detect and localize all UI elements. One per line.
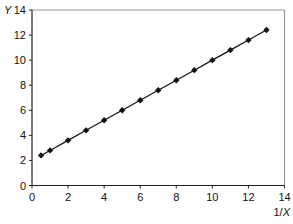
y-tick-label: 8 <box>20 79 26 91</box>
series-line <box>41 30 266 155</box>
y-axis-title: Y <box>4 4 12 16</box>
x-tick-label: 2 <box>65 191 71 203</box>
data-point-diamond-icon <box>227 47 233 53</box>
axes <box>32 10 285 186</box>
x-tick-label: 0 <box>29 191 35 203</box>
x-axis-ticks: 02468101214 <box>29 186 291 203</box>
data-point-diamond-icon <box>65 137 71 143</box>
data-point-diamond-icon <box>245 37 251 43</box>
chart: 02468101214 02468101214 Y 1/X <box>0 0 293 224</box>
data-series <box>38 27 270 159</box>
x-tick-label: 14 <box>278 191 290 203</box>
data-point-diamond-icon <box>83 127 89 133</box>
x-axis-title: 1/X <box>273 206 290 218</box>
data-point-diamond-icon <box>38 152 44 158</box>
plot-frame <box>32 10 285 186</box>
data-point-diamond-icon <box>101 117 107 123</box>
x-axis-title-var: X <box>282 206 291 218</box>
data-point-diamond-icon <box>47 147 53 153</box>
y-tick-label: 12 <box>14 29 26 41</box>
y-tick-label: 0 <box>20 180 26 192</box>
data-point-diamond-icon <box>209 57 215 63</box>
x-tick-label: 6 <box>137 191 143 203</box>
data-point-diamond-icon <box>119 107 125 113</box>
data-point-diamond-icon <box>263 27 269 33</box>
x-tick-label: 12 <box>242 191 254 203</box>
data-point-diamond-icon <box>137 97 143 103</box>
data-point-diamond-icon <box>173 77 179 83</box>
data-point-diamond-icon <box>155 87 161 93</box>
x-tick-label: 10 <box>206 191 218 203</box>
y-axis-ticks: 02468101214 <box>14 4 32 192</box>
x-tick-label: 4 <box>101 191 107 203</box>
x-tick-label: 8 <box>173 191 179 203</box>
y-tick-label: 14 <box>14 4 26 16</box>
data-point-diamond-icon <box>191 67 197 73</box>
y-tick-label: 2 <box>20 154 26 166</box>
y-tick-label: 10 <box>14 54 26 66</box>
y-tick-label: 4 <box>20 129 26 141</box>
y-tick-label: 6 <box>20 104 26 116</box>
